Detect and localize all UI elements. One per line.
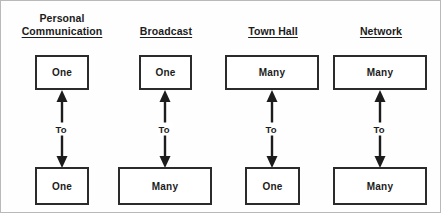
communication-patterns-diagram: Personal Communication One To One Broadc…	[0, 0, 441, 213]
target-node-label: Many	[367, 181, 393, 192]
target-node-label: One	[262, 181, 282, 192]
target-node-town-hall: One	[245, 167, 300, 205]
source-node-label: Many	[367, 67, 393, 78]
diagram-column-town-hall: Town Hall Many To One	[220, 1, 326, 213]
source-node-broadcast: One	[139, 55, 192, 90]
source-node-label: One	[52, 67, 72, 78]
source-node-personal-communication: One	[35, 55, 89, 90]
column-title-line1: Personal	[1, 12, 123, 25]
connector-town-hall: To	[255, 89, 289, 169]
diagram-column-personal-communication: Personal Communication One To One	[1, 1, 123, 213]
column-title-line2: Town Hall	[248, 25, 298, 37]
connector-personal-communication: To	[45, 89, 79, 169]
target-node-broadcast: Many	[118, 167, 212, 205]
target-node-personal-communication: One	[35, 167, 89, 205]
column-title-line2: Communication	[22, 25, 103, 37]
target-node-network: Many	[333, 167, 427, 205]
connector-label: To	[265, 123, 280, 136]
source-node-label: Many	[259, 67, 285, 78]
target-node-label: Many	[152, 181, 178, 192]
target-node-label: One	[52, 181, 72, 192]
diagram-column-network: Network Many To Many	[328, 1, 434, 213]
column-title-personal-communication: Personal Communication	[1, 12, 123, 38]
connector-label: To	[158, 123, 173, 136]
connector-broadcast: To	[148, 89, 182, 169]
column-title-town-hall: Town Hall	[220, 25, 326, 38]
diagram-column-broadcast: Broadcast One To Many	[113, 1, 219, 213]
source-node-town-hall: Many	[225, 55, 319, 90]
connector-label: To	[373, 123, 388, 136]
connector-label: To	[55, 123, 70, 136]
column-title-line2: Broadcast	[140, 25, 192, 37]
column-title-network: Network	[328, 25, 434, 38]
source-node-label: One	[155, 67, 175, 78]
column-title-broadcast: Broadcast	[113, 25, 219, 38]
column-title-line2: Network	[360, 25, 402, 37]
source-node-network: Many	[333, 55, 427, 90]
connector-network: To	[363, 89, 397, 169]
